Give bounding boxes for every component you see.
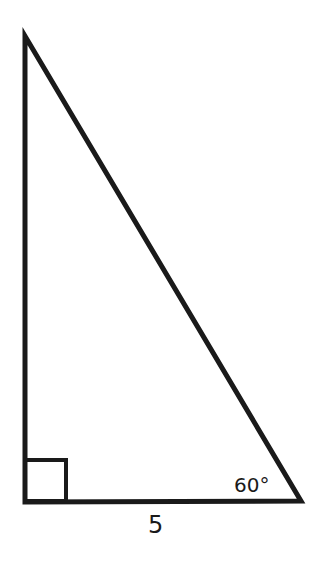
side-label: 5	[148, 511, 163, 539]
right-triangle	[25, 36, 301, 502]
triangle-diagram: 60° 5	[0, 0, 327, 567]
right-angle-marker	[25, 460, 66, 501]
angle-label: 60°	[234, 473, 269, 497]
